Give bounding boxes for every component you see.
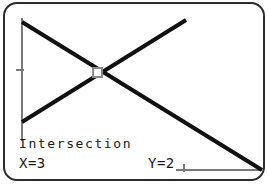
plot-line-descending <box>22 22 262 170</box>
graph-plot-area[interactable] <box>0 0 269 184</box>
intersection-cursor-marker[interactable] <box>93 68 102 77</box>
calculator-screen: Intersection X=3 Y=2 <box>0 0 269 184</box>
graph-canvas <box>0 0 269 184</box>
